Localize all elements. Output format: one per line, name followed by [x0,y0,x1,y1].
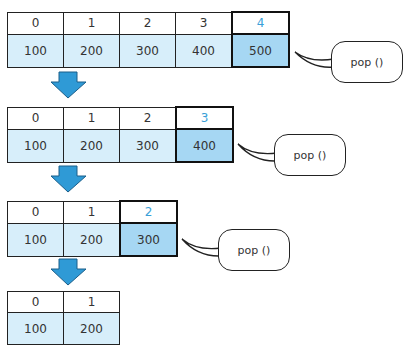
last-value-cell: 300 [120,223,177,256]
last-value-cell: 400 [176,129,233,162]
index-cell: 2 [120,107,177,129]
last-value-cell: 500 [232,34,289,67]
value-cell: 100 [8,313,64,345]
index-cell: 2 [120,12,176,34]
value-cell: 300 [120,34,176,67]
index-cell: 0 [8,201,64,223]
value-cell: 300 [120,129,177,162]
array-step-2: 0 1 2 3 100 200 300 400 [7,106,234,163]
value-cell: 400 [176,34,233,67]
down-arrow-icon [50,165,88,193]
value-cell: 200 [64,223,121,256]
index-cell: 1 [64,107,120,129]
down-arrow-icon [50,258,88,286]
array-step-1: 0 1 2 3 4 100 200 300 400 500 [7,11,290,68]
index-row: 0 1 2 [8,201,178,223]
value-row: 100 200 300 400 500 [8,34,290,67]
index-cell: 0 [8,292,64,313]
value-cell: 200 [64,34,120,67]
value-cell: 100 [8,34,64,67]
pop-label: pop () [294,149,327,162]
index-cell: 1 [64,292,120,313]
index-cell: 0 [8,107,64,129]
index-row: 0 1 2 3 [8,107,234,129]
pop-bubble-1: pop () [331,41,403,83]
value-row: 100 200 300 400 [8,129,234,162]
array-step-3: 0 1 2 100 200 300 [7,200,178,257]
value-cell: 200 [64,129,120,162]
pop-label: pop () [351,56,384,69]
last-index-cell: 4 [232,12,289,34]
value-row: 100 200 [8,313,120,345]
pop-bubble-2: pop () [274,134,346,176]
value-cell: 200 [64,313,120,345]
value-row: 100 200 300 [8,223,178,256]
value-cell: 100 [8,129,64,162]
index-cell: 1 [64,12,120,34]
index-row: 0 1 2 3 4 [8,12,290,34]
last-index-cell: 2 [120,201,177,223]
last-index-cell: 3 [176,107,233,129]
index-cell: 3 [176,12,233,34]
pop-label: pop () [238,244,271,257]
index-cell: 0 [8,12,64,34]
value-cell: 100 [8,223,64,256]
index-row: 0 1 [8,292,120,313]
down-arrow-icon [50,71,88,99]
pop-bubble-3: pop () [218,229,290,271]
index-cell: 1 [64,201,121,223]
array-step-4: 0 1 100 200 [7,291,120,345]
